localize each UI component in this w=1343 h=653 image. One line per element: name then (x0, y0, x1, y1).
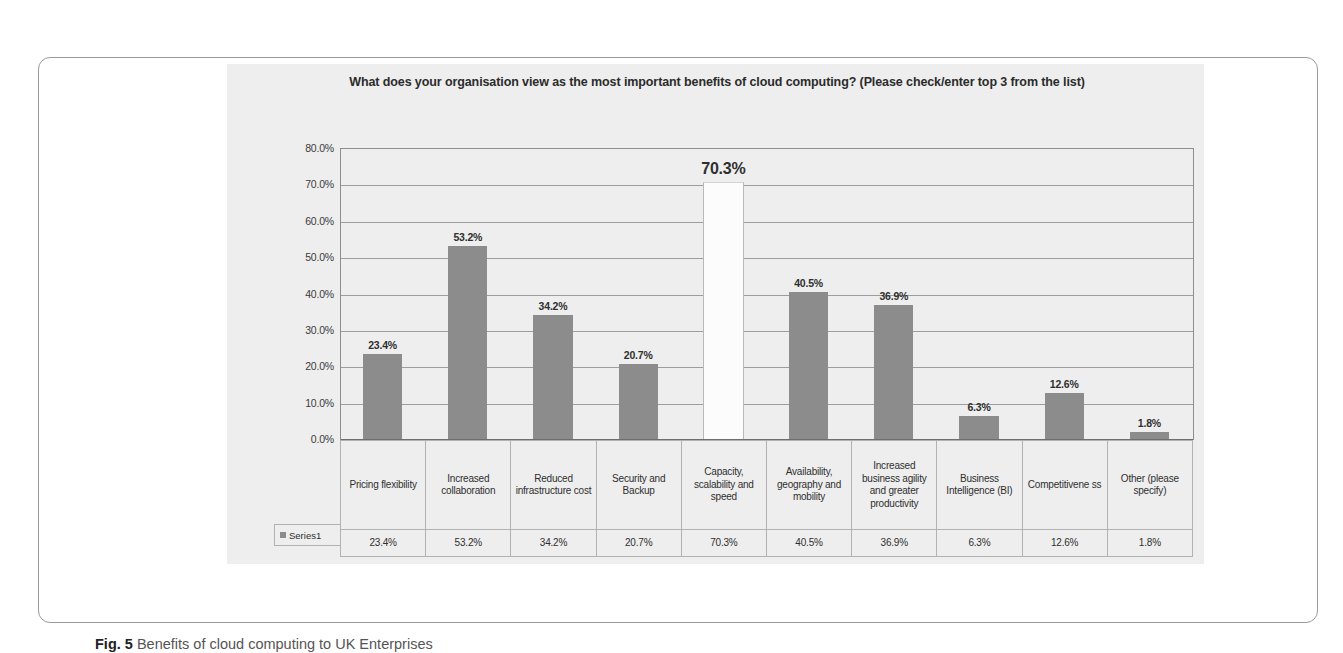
y-axis-tick-label: 20.0% (280, 360, 334, 372)
table-cell-value: 34.2% (511, 530, 596, 557)
bar-slot: 40.5% (766, 148, 851, 439)
y-axis-tick-label: 0.0% (280, 433, 334, 445)
table-cell-category: Capacity, scalability and speed (681, 441, 766, 530)
chart-title: What does your organisation view as the … (267, 73, 1167, 92)
bar-value-label: 20.7% (624, 349, 653, 361)
figure-card: What does your organisation view as the … (38, 57, 1318, 623)
table-row-series: 23.4%53.2%34.2%20.7%70.3%40.5%36.9%6.3%1… (341, 530, 1193, 557)
bar[interactable]: 40.5% (789, 292, 828, 439)
bar-slot: 12.6% (1022, 148, 1107, 439)
chart-object[interactable]: What does your organisation view as the … (227, 64, 1204, 564)
bar[interactable]: 6.3% (959, 416, 998, 439)
bar[interactable]: 12.6% (1045, 393, 1084, 439)
table-cell-value: 36.9% (852, 530, 937, 557)
figure-caption-text: Benefits of cloud computing to UK Enterp… (137, 636, 433, 652)
bar-slot: 1.8% (1107, 148, 1192, 439)
bar[interactable]: 20.7% (619, 364, 658, 439)
bar-value-label: 70.3% (701, 160, 745, 178)
table-cell-value: 6.3% (937, 530, 1022, 557)
bar-value-label: 40.5% (794, 277, 823, 289)
table-cell-value: 20.7% (596, 530, 681, 557)
bar-value-label: 34.2% (539, 300, 568, 312)
y-axis-tick-label: 10.0% (280, 397, 334, 409)
table-cell-category: Other (please specify) (1107, 441, 1192, 530)
table-cell-value: 12.6% (1022, 530, 1107, 557)
bar-slot: 36.9% (851, 148, 936, 439)
legend-strip: Series1 (274, 524, 340, 546)
bar[interactable]: 70.3% (703, 182, 744, 439)
bar-slot: 20.7% (596, 148, 681, 439)
table-cell-category: Pricing flexibility (341, 441, 426, 530)
table-cell-value: 70.3% (681, 530, 766, 557)
legend-series-label: Series1 (289, 530, 321, 541)
bar-value-label: 12.6% (1050, 378, 1079, 390)
table-cell-value: 40.5% (766, 530, 851, 557)
bar[interactable]: 23.4% (363, 354, 402, 439)
bars-layer: 23.4%53.2%34.2%20.7%70.3%40.5%36.9%6.3%1… (340, 148, 1192, 439)
bar[interactable]: 53.2% (448, 246, 487, 440)
table-cell-category: Increased business agility and greater p… (852, 441, 937, 530)
y-axis: 80.0%70.0%60.0%50.0%40.0%30.0%20.0%10.0%… (274, 148, 334, 439)
bar-value-label: 23.4% (368, 339, 397, 351)
bar-slot: 70.3% (681, 148, 766, 439)
table-cell-category: Competitivene ss (1022, 441, 1107, 530)
bar-slot: 6.3% (936, 148, 1021, 439)
y-axis-tick-label: 60.0% (280, 215, 334, 227)
bar-value-label: 1.8% (1138, 417, 1161, 429)
table-cell-category: Reduced infrastructure cost (511, 441, 596, 530)
bar[interactable]: 36.9% (874, 305, 913, 439)
bar-value-label: 36.9% (879, 290, 908, 302)
table-cell-value: 53.2% (426, 530, 511, 557)
bar-slot: 53.2% (425, 148, 510, 439)
bar-slot: 23.4% (340, 148, 425, 439)
y-axis-tick-label: 30.0% (280, 324, 334, 336)
bar[interactable]: 1.8% (1130, 432, 1169, 439)
table-row-categories: Pricing flexibilityIncreased collaborati… (341, 441, 1193, 530)
y-axis-tick-label: 40.0% (280, 288, 334, 300)
figure-caption-label: Fig. 5 (95, 636, 133, 652)
bar-value-label: 53.2% (453, 231, 482, 243)
y-axis-tick-label: 50.0% (280, 251, 334, 263)
y-axis-tick-label: 80.0% (280, 142, 334, 154)
table-cell-category: Availability, geography and mobility (766, 441, 851, 530)
table-cell-category: Increased collaboration (426, 441, 511, 530)
table-cell-value: 23.4% (341, 530, 426, 557)
bar-value-label: 6.3% (967, 401, 990, 413)
legend-swatch-icon (280, 532, 286, 538)
data-table: Pricing flexibilityIncreased collaborati… (340, 440, 1193, 557)
bar-slot: 34.2% (510, 148, 595, 439)
y-axis-tick-label: 70.0% (280, 178, 334, 190)
bar[interactable]: 34.2% (533, 315, 572, 439)
table-cell-category: Security and Backup (596, 441, 681, 530)
table-cell-category: Business Intelligence (BI) (937, 441, 1022, 530)
figure-caption: Fig. 5 Benefits of cloud computing to UK… (95, 636, 433, 652)
table-cell-value: 1.8% (1107, 530, 1192, 557)
